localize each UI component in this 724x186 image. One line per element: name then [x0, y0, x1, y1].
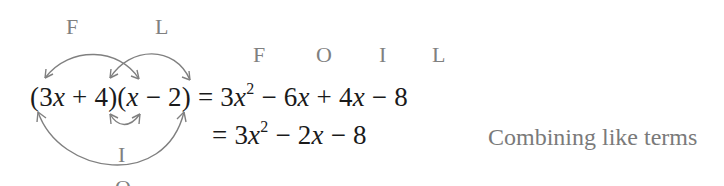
- inner-arc-head-left: [110, 114, 118, 124]
- term-linear: 2x: [298, 120, 324, 150]
- equals-sign: =: [198, 82, 213, 112]
- equation-line-2: = 3x2 − 2x − 8: [212, 120, 367, 151]
- term-last: 8: [394, 82, 408, 112]
- combining-note: Combining like terms: [488, 124, 697, 151]
- last-arc-head-right: [182, 71, 190, 80]
- arc-label-outer: O: [115, 175, 131, 186]
- column-label-inner: I: [379, 42, 386, 68]
- factor-1: (3x + 4): [30, 82, 117, 112]
- column-label-first: F: [253, 42, 265, 68]
- first-arc: [45, 54, 139, 79]
- column-label-last: L: [432, 42, 445, 68]
- inner-arc-head-right: [132, 114, 140, 124]
- equals-sign: =: [212, 120, 227, 150]
- term-outer: 6x: [284, 82, 310, 112]
- last-arc: [110, 54, 190, 80]
- factor-2: (x − 2): [117, 82, 191, 112]
- equation-line-1: (3x + 4)(x − 2) = 3x2 − 6x + 4x − 8: [30, 82, 408, 113]
- last-arc-head-left: [110, 69, 118, 78]
- outer-arc-head-left: [37, 112, 46, 122]
- first-arc-head-left: [45, 69, 53, 78]
- column-label-outer: O: [316, 42, 332, 68]
- term-first: 3x2: [220, 82, 254, 112]
- arc-label-inner: I: [118, 142, 125, 168]
- term-inner: 4x: [339, 82, 365, 112]
- term-squared: 3x2: [234, 120, 268, 150]
- first-arc-head-right: [131, 70, 139, 79]
- outer-arc: [38, 112, 184, 165]
- outer-arc-head-right: [177, 112, 186, 122]
- inner-arc: [110, 114, 140, 125]
- arc-label-last: L: [155, 14, 168, 40]
- arc-label-first: F: [66, 14, 78, 40]
- term-constant: 8: [353, 120, 367, 150]
